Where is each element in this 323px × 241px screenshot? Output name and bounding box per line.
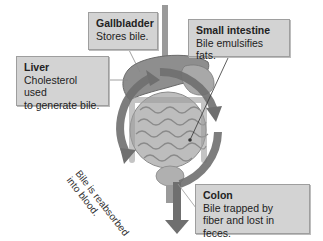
colon-label: Colon Bile trapped by fiber and lost in …	[195, 184, 310, 234]
arrowhead-icon	[165, 220, 189, 234]
colon-desc-line2: fiber and lost in feces.	[203, 214, 303, 239]
gallbladder-label: Gallbladder Stores bile.	[88, 12, 158, 50]
colon-title: Colon	[203, 189, 303, 202]
small-intestine-icon	[130, 92, 208, 168]
liver-desc-line1: Cholesterol used	[24, 74, 102, 99]
liver-title: Liver	[24, 61, 102, 74]
anus-icon	[166, 185, 174, 203]
gallbladder-desc: Stores bile.	[96, 30, 151, 43]
liver-desc-line2: to generate bile.	[24, 99, 102, 112]
bile-circulation-diagram: Gallbladder Stores bile. Liver Cholester…	[0, 0, 323, 241]
liver-label: Liver Cholesterol used to generate bile.	[16, 56, 109, 106]
small-intestine-title: Small intestine	[196, 24, 283, 37]
pointer-dot	[188, 138, 192, 142]
gallbladder-title: Gallbladder	[96, 17, 151, 30]
small-intestine-desc: Bile emulsifies fats.	[196, 37, 283, 62]
excretion-arrow-icon	[173, 182, 181, 222]
colon-desc-line1: Bile trapped by	[203, 202, 303, 215]
small-intestine-label: Small intestine Bile emulsifies fats.	[188, 19, 290, 57]
arrowhead-icon	[206, 106, 222, 122]
